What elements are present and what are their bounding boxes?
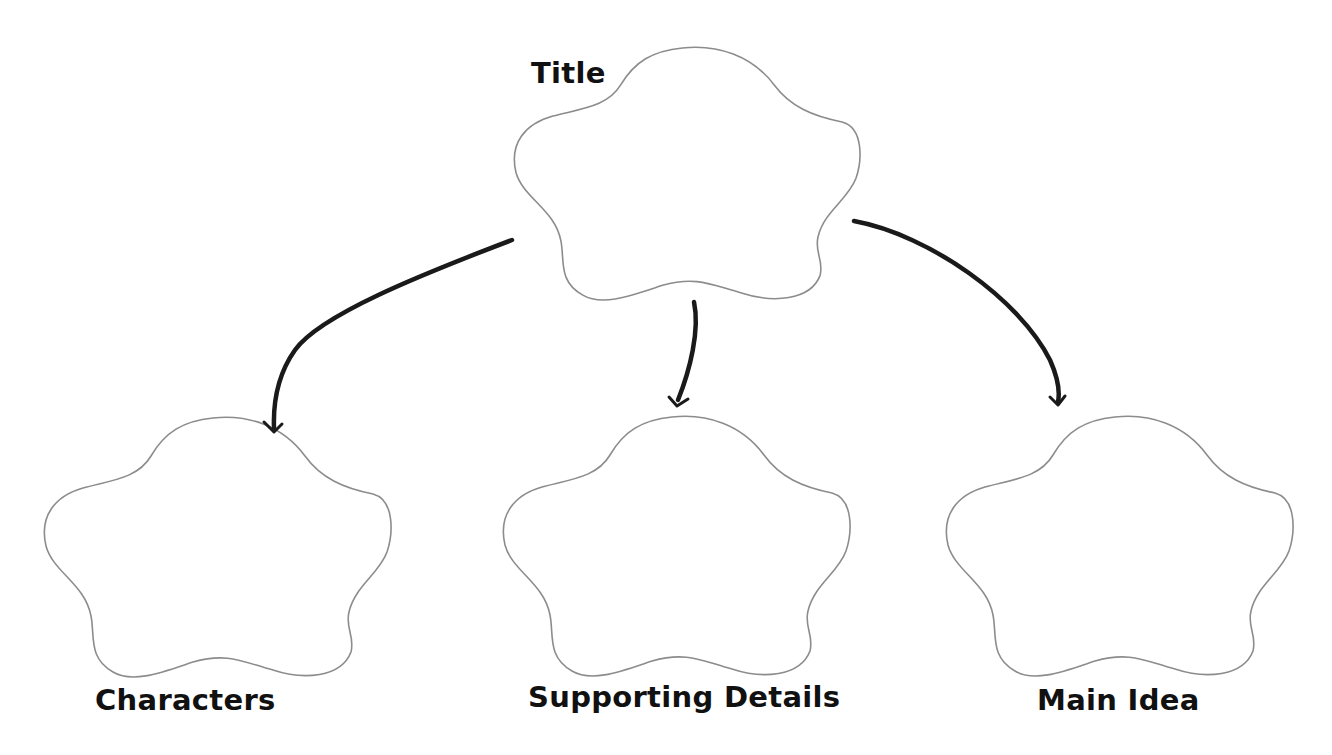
node-label-supporting-details: Supporting Details bbox=[528, 680, 840, 714]
node-label-main-idea: Main Idea bbox=[1037, 683, 1200, 717]
arrow-to-supporting-details bbox=[669, 302, 696, 406]
supporting-details-cloud bbox=[503, 416, 850, 676]
node-label-title: Title bbox=[531, 56, 606, 90]
main-idea-cloud bbox=[946, 416, 1293, 676]
node-label-characters: Characters bbox=[95, 683, 276, 717]
arrow-to-main-idea bbox=[854, 221, 1065, 405]
characters-cloud bbox=[44, 417, 391, 677]
arrow-to-characters bbox=[264, 240, 512, 432]
graphic-organizer-diagram bbox=[0, 0, 1332, 755]
